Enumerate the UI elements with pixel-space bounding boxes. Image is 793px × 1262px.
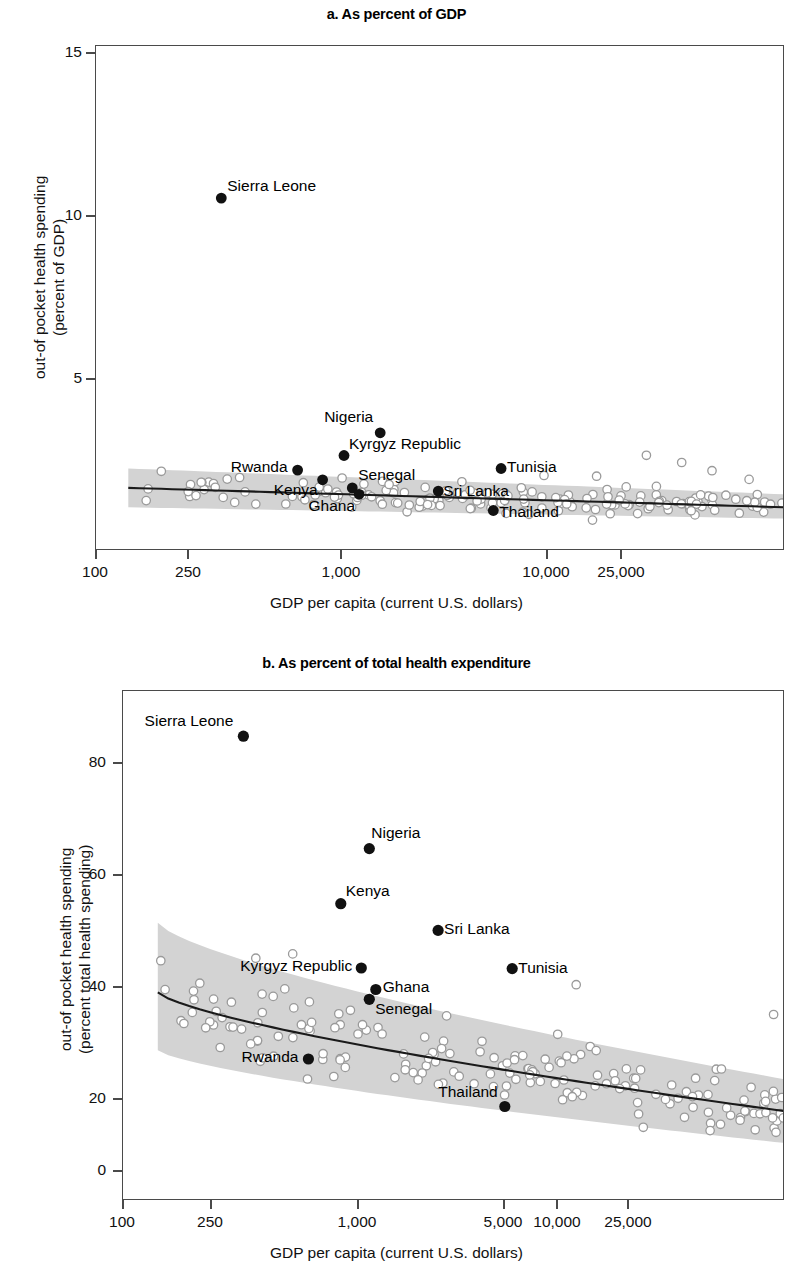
panel-b-scatter-canvas [123, 691, 784, 1200]
scatter-point [717, 1065, 725, 1073]
scatter-point [324, 485, 332, 493]
scatter-point [572, 981, 580, 989]
scatter-point [305, 998, 313, 1006]
scatter-point [227, 998, 235, 1006]
panel-a-ytickmark-10 [86, 215, 95, 217]
scatter-point [486, 1070, 494, 1078]
scatter-point [622, 1065, 630, 1073]
scatter-point [231, 498, 239, 506]
scatter-point [642, 451, 650, 459]
panel-b-xtick-label-100: 100 [82, 1213, 162, 1231]
scatter-point [709, 493, 717, 501]
panel-b-ytickmark-40 [113, 986, 122, 988]
scatter-point [722, 491, 730, 499]
scatter-point [282, 500, 290, 508]
highlighted-point-sri-lanka [433, 925, 444, 936]
panel-b-title: b. As percent of total health expenditur… [0, 655, 793, 671]
panel-b-plot-area [122, 690, 784, 1200]
scatter-point [290, 1004, 298, 1012]
scatter-point [563, 1052, 571, 1060]
point-label-kyrgyz-republic: Kyrgyz Republic [349, 435, 461, 453]
point-label-tunisia: Tunisia [518, 959, 567, 977]
scatter-point [711, 1076, 719, 1084]
scatter-point [219, 493, 227, 501]
panel-a-ytick-10: 10 [38, 206, 82, 224]
scatter-point [354, 1030, 362, 1038]
scatter-point [778, 1093, 785, 1101]
highlighted-point-rwanda [292, 465, 303, 476]
highlighted-point-kenya [335, 898, 346, 909]
scatter-point [704, 1108, 712, 1116]
scatter-point [689, 1103, 697, 1111]
scatter-point [346, 1006, 354, 1014]
scatter-point [500, 1091, 508, 1099]
scatter-point [736, 1116, 744, 1124]
scatter-point [189, 987, 197, 995]
point-label-kenya: Kenya [346, 882, 390, 900]
scatter-point [592, 1046, 600, 1054]
scatter-point [696, 491, 704, 499]
scatter-point [512, 1075, 520, 1083]
scatter-point [223, 475, 231, 483]
scatter-point [378, 1030, 386, 1038]
scatter-point [502, 1082, 510, 1090]
panel-b-ytick-40: 40 [62, 977, 106, 995]
scatter-point [680, 1113, 688, 1121]
scatter-point [281, 985, 289, 993]
scatter-point [678, 458, 686, 466]
point-label-ghana: Ghana [309, 497, 356, 515]
scatter-point [779, 1114, 784, 1122]
highlighted-point-sierra-leone [216, 193, 227, 204]
scatter-point [632, 1074, 640, 1082]
scatter-point [161, 985, 169, 993]
scatter-point [258, 990, 266, 998]
scatter-point [192, 491, 200, 499]
scatter-point [510, 1056, 518, 1064]
scatter-point [421, 1033, 429, 1041]
scatter-point [421, 483, 429, 491]
scatter-point [588, 516, 596, 524]
scatter-point [229, 1023, 237, 1031]
scatter-point [331, 1024, 339, 1032]
scatter-point [551, 1079, 559, 1087]
panel-b-xtickmark-100 [122, 1200, 124, 1209]
point-label-sri-lanka: Sri Lanka [443, 482, 508, 500]
scatter-point [336, 1056, 344, 1064]
scatter-point [652, 482, 660, 490]
panel-b-ytickmark-20 [113, 1098, 122, 1100]
scatter-point [319, 1050, 327, 1058]
scatter-point [142, 496, 150, 504]
scatter-point [269, 992, 277, 1000]
highlighted-point-kyrgyz-republic [339, 450, 350, 461]
panel-b-xtickmark-25000 [627, 1200, 629, 1209]
scatter-point [335, 1010, 343, 1018]
scatter-point [704, 1090, 712, 1098]
scatter-point [708, 467, 716, 475]
scatter-point [747, 1083, 755, 1091]
highlighted-point-senegal [364, 994, 375, 1005]
scatter-point [723, 1104, 731, 1112]
panel-a-xtickmark-1000 [340, 550, 342, 559]
scatter-point [437, 1044, 445, 1052]
highlighted-point-sierra-leone [238, 731, 249, 742]
scatter-point [751, 1126, 759, 1134]
scatter-point [216, 1043, 224, 1051]
scatter-point [274, 1032, 282, 1040]
scatter-point [634, 1110, 642, 1118]
panel-b-xtick-label-1000: 1,000 [314, 1213, 400, 1231]
panel-b-xtickmark-250 [210, 1200, 212, 1209]
panel-b-ytickmark-0 [113, 1170, 122, 1172]
scatter-point [639, 1123, 647, 1131]
scatter-point [582, 504, 590, 512]
panel-a-scatter-canvas [96, 46, 784, 550]
scatter-point [196, 979, 204, 987]
scatter-point [541, 1055, 549, 1063]
point-label-kenya: Kenya [274, 481, 318, 499]
panel-b-ytickmark-60 [113, 874, 122, 876]
scatter-point [611, 1077, 619, 1085]
scatter-point [622, 483, 630, 491]
scatter-point [732, 495, 740, 503]
point-label-nigeria: Nigeria [324, 408, 373, 426]
point-label-thailand: Thailand [499, 503, 558, 521]
panel-a-xtickmark-100 [95, 550, 97, 559]
